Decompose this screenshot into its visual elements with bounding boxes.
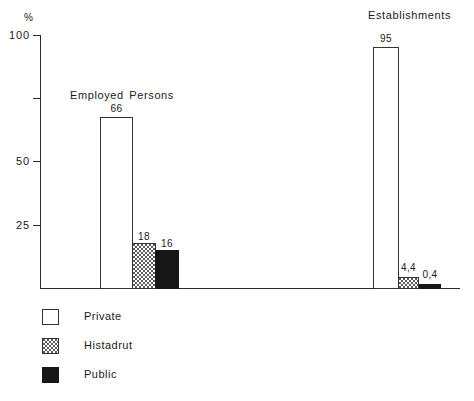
bar-value-establishments-private: 95 [373,33,399,44]
legend-swatch-histadrut-icon [42,338,59,354]
y-tick-label-100: 100 [0,29,30,41]
bar-chart: % 100 50 25 Employed Persons 66 18 16 Es… [0,0,474,401]
y-tick-50 [33,161,41,162]
bar-establishments-private [373,47,399,289]
group-title-establishments: Establishments [368,9,451,21]
bar-establishments-public [419,284,441,289]
y-tick-label-50: 50 [0,155,30,167]
legend-label-histadrut: Histadrut [84,339,133,351]
y-tick-75 [33,98,41,99]
bar-employed-histadrut [132,243,156,289]
legend-swatch-private-icon [42,309,59,325]
bar-value-employed-public: 16 [155,238,179,249]
bar-value-employed-histadrut: 18 [132,231,156,242]
legend-label-private: Private [84,310,122,322]
bar-value-establishments-histadrut: 4,4 [398,262,419,273]
y-axis-line [40,35,41,289]
bar-value-establishments-public: 0,4 [419,269,441,280]
y-tick-100 [33,35,41,36]
bar-establishments-histadrut [398,277,419,289]
legend-swatch-public-icon [42,367,59,383]
y-tick-25 [33,225,41,226]
legend-label-public: Public [84,368,117,380]
bar-value-employed-private: 66 [100,103,133,114]
bar-employed-public [155,250,179,289]
group-title-employed-persons: Employed Persons [70,89,174,101]
bar-employed-private [100,117,133,289]
y-tick-label-25: 25 [0,219,30,231]
plot-area: % 100 50 25 Employed Persons 66 18 16 Es… [0,0,474,401]
y-axis-unit-label: % [24,12,33,23]
